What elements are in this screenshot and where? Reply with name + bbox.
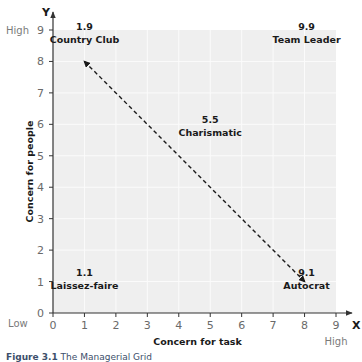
x-tick-label: 6 bbox=[238, 319, 245, 332]
point-name-label: Country Club bbox=[50, 34, 120, 45]
managerial-grid-chart: YX01234567890123456789LowHighHighConcern… bbox=[0, 0, 362, 362]
y-tick-label: 9 bbox=[37, 24, 44, 37]
x-tick-label: 4 bbox=[175, 319, 182, 332]
figure-title: The Managerial Grid bbox=[61, 352, 152, 362]
x-axis-title: Concern for task bbox=[153, 336, 242, 347]
point-value-label: 9.9 bbox=[298, 21, 315, 32]
y-tick-label: 8 bbox=[37, 55, 44, 68]
x-tick-label: 9 bbox=[333, 319, 340, 332]
figure-label: Figure 3.1 bbox=[6, 352, 58, 362]
y-tick-label: 1 bbox=[37, 276, 44, 289]
y-tick-label: 6 bbox=[37, 118, 44, 131]
point-name-label: Charismatic bbox=[178, 127, 241, 138]
y-high-label: High bbox=[6, 25, 29, 36]
y-tick-label: 0 bbox=[37, 307, 44, 320]
x-tick-label: 8 bbox=[301, 319, 308, 332]
y-tick-label: 5 bbox=[37, 150, 44, 163]
point-value-label: 9.1 bbox=[298, 267, 315, 278]
x-tick-label: 1 bbox=[81, 319, 88, 332]
point-name-label: Team Leader bbox=[272, 34, 340, 45]
x-tick-label: 2 bbox=[112, 319, 119, 332]
x-tick-label: 0 bbox=[50, 319, 57, 332]
point-name-label: Autocrat bbox=[283, 280, 330, 291]
x-tick-label: 3 bbox=[144, 319, 151, 332]
x-tick-label: 5 bbox=[207, 319, 214, 332]
point-value-label: 1.9 bbox=[76, 21, 93, 32]
y-tick-label: 4 bbox=[37, 181, 44, 194]
y-tick-label: 2 bbox=[37, 244, 44, 257]
point-value-label: 1.1 bbox=[76, 267, 93, 278]
x-low-label: Low bbox=[8, 318, 28, 329]
y-axis-letter: Y bbox=[41, 6, 51, 19]
figure-caption: Figure 3.1 The Managerial Grid bbox=[6, 352, 152, 362]
x-high-label: High bbox=[325, 336, 348, 347]
point-value-label: 5.5 bbox=[202, 114, 219, 125]
y-axis-title: Concern for people bbox=[24, 120, 35, 222]
y-tick-label: 3 bbox=[37, 213, 44, 226]
x-axis-letter: X bbox=[352, 319, 361, 332]
y-tick-label: 7 bbox=[37, 87, 44, 100]
x-tick-label: 7 bbox=[270, 319, 277, 332]
point-name-label: Laissez-faire bbox=[51, 280, 119, 291]
